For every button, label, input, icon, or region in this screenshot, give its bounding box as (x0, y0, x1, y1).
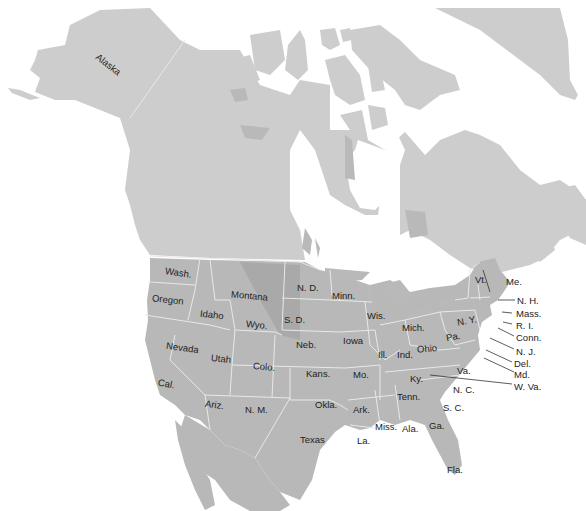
label-indiana: Ind. (397, 350, 413, 360)
label-georgia: Ga. (429, 421, 444, 431)
label-mississippi: Miss. (375, 422, 397, 432)
north-america-map (0, 0, 586, 511)
label-new-mexico: N. M. (245, 405, 268, 415)
label-arkansas: Ark. (353, 405, 370, 415)
label-tennessee: Tenn. (397, 392, 420, 402)
label-wyoming: Wyo. (246, 319, 268, 330)
label-oklahoma: Okla. (315, 400, 337, 410)
label-south-dakota: S. D. (284, 315, 305, 325)
label-iowa: Iowa (343, 336, 363, 346)
label-kansas: Kans. (306, 369, 330, 379)
label-colorado: Colo. (253, 361, 276, 372)
label-wisconsin: Wis. (367, 311, 385, 321)
label-massachusetts: Mass. (516, 309, 541, 319)
label-new-hampshire: N. H. (517, 296, 539, 306)
label-louisiana: La. (357, 436, 370, 446)
label-south-carolina: S. C. (443, 403, 464, 413)
label-maryland: Md. (514, 370, 530, 380)
label-connecticut: Conn. (516, 333, 541, 343)
label-idaho: Idaho (200, 309, 225, 321)
label-rhode-island: R. I. (516, 321, 533, 331)
label-missouri: Mo. (353, 370, 369, 380)
label-florida: Fla. (447, 465, 463, 475)
label-new-jersey: N. J. (516, 347, 536, 357)
label-virginia: Va. (457, 366, 471, 376)
label-utah: Utah (211, 353, 232, 364)
label-vermont: Vt. (475, 275, 487, 285)
label-illinois: Ill. (378, 350, 388, 360)
label-california: Cal. (157, 378, 175, 390)
label-nebraska: Neb. (296, 340, 316, 350)
label-arizona: Ariz. (204, 399, 224, 411)
label-west-virginia: W. Va. (514, 382, 541, 392)
label-michigan: Mich. (402, 323, 425, 333)
label-delaware: Del. (514, 359, 531, 369)
label-minnesota: Minn. (332, 291, 355, 301)
label-alabama: Ala. (402, 424, 418, 434)
label-maine: Me. (506, 277, 522, 287)
label-pennsylvania: Pa. (445, 331, 461, 343)
label-north-dakota: N. D. (297, 283, 319, 293)
label-ohio: Ohio (417, 343, 438, 354)
label-texas: Texas (300, 435, 325, 445)
label-north-carolina: N. C. (453, 385, 475, 395)
label-kentucky: Ky. (410, 374, 423, 384)
